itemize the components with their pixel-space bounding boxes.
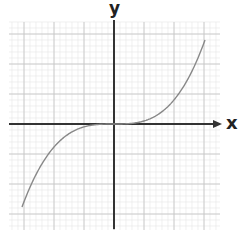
x-axis-arrow-icon — [213, 120, 222, 128]
x-axis-label: x — [226, 112, 238, 133]
y-axis-label: y — [109, 0, 120, 18]
cubic-graph — [0, 0, 245, 234]
